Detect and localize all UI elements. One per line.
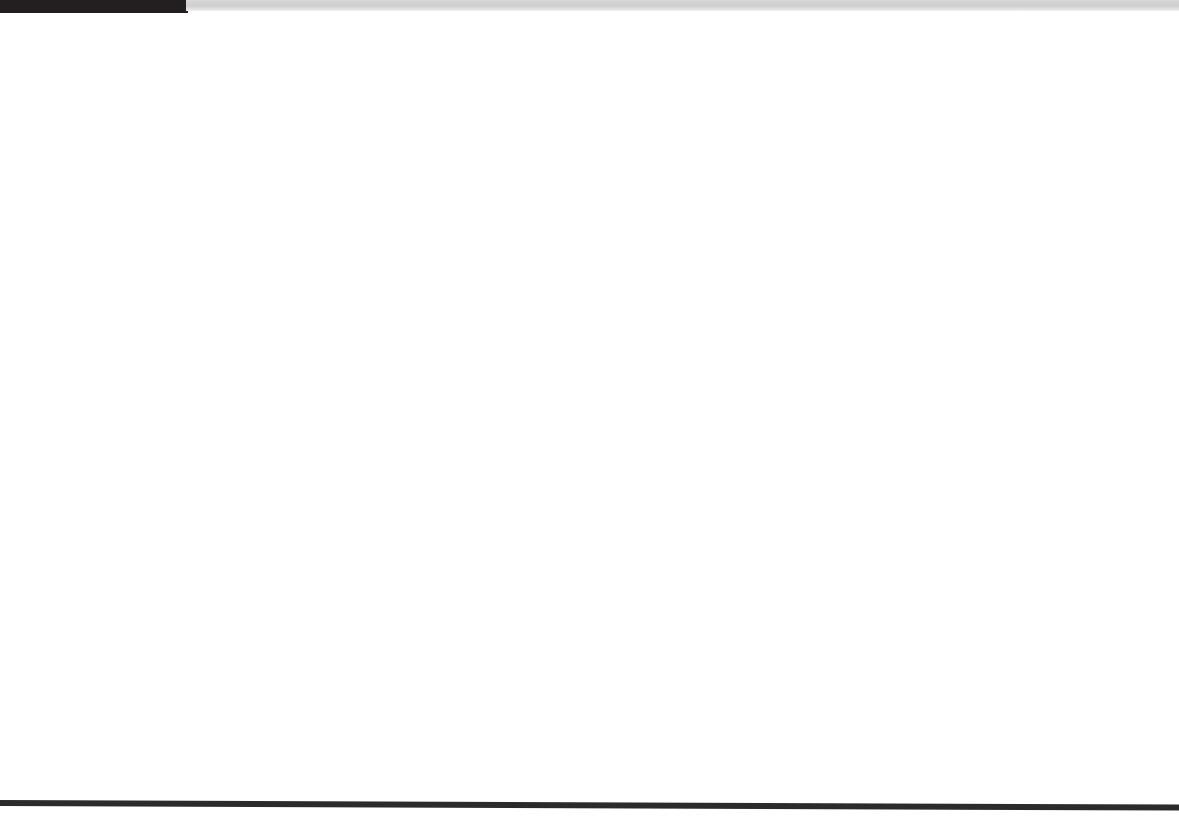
scanned-page (0, 0, 1179, 826)
corporate-debt-securities-tree-diagram (0, 0, 1179, 826)
